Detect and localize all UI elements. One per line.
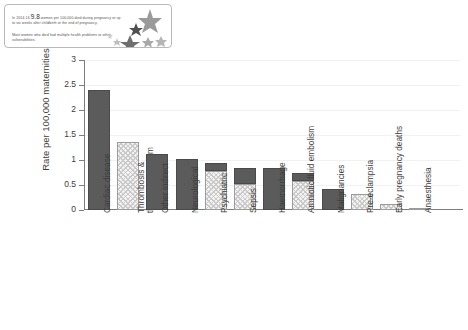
bar-chart: Rate per 100,000 maternities 00.511.522.… (0, 52, 468, 330)
callout-box: In 2014-16 9.8 women per 100,000 died du… (4, 4, 172, 48)
star-icon (138, 9, 162, 33)
star-icon (129, 23, 143, 36)
y-tick-label: 2 (26, 104, 76, 114)
x-tick-label: Haemorrhage (278, 162, 287, 213)
y-tick-label: 1.5 (26, 129, 76, 139)
y-tick-label: 0 (26, 204, 76, 214)
star-icon (113, 38, 121, 46)
x-tick-label: Amniotic fluid embolism (307, 126, 316, 213)
y-axis-line (84, 60, 85, 210)
y-tick-label: 2.5 (26, 79, 76, 89)
y-tick-label: 0.5 (26, 179, 76, 189)
x-tick-label: Cardiac disease (103, 154, 112, 214)
bar-segment-direct (234, 168, 256, 185)
star-icon (107, 33, 113, 39)
y-tick-mark (79, 85, 84, 86)
y-tick-mark (79, 135, 84, 136)
callout-headline-number: 9.8 (31, 13, 40, 20)
x-tick-label: Anaesthesia (424, 167, 433, 213)
bar-segment-direct (205, 163, 227, 172)
y-tick-mark (79, 160, 84, 161)
y-tick-label: 3 (26, 54, 76, 64)
y-tick-mark (79, 60, 84, 61)
x-tick-label: Sepsis (249, 188, 258, 213)
x-tick-label: Early pregnancy deaths (395, 126, 404, 213)
y-tick-label: 1 (26, 154, 76, 164)
callout-line1-prefix: In 2014-16 (12, 16, 31, 20)
star-icon (142, 37, 154, 48)
x-tick-label: Pre-eclampsia (366, 160, 375, 213)
y-tick-mark (79, 110, 84, 111)
stars-cluster-icon (103, 7, 172, 48)
x-tick-label: Malignancies (337, 165, 346, 213)
star-icon (155, 36, 167, 47)
y-tick-mark (79, 185, 84, 186)
y-tick-mark (79, 210, 84, 211)
x-tick-label: Psychiatric (220, 173, 229, 213)
x-tick-label: Neurological (191, 167, 200, 213)
x-tick-label: Other indirect (161, 163, 170, 213)
star-icon (120, 35, 140, 48)
